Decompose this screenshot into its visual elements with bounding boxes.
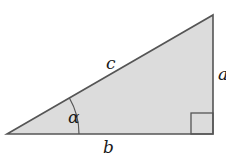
label-b: b (103, 137, 114, 157)
right-triangle-diagram: c a b α (0, 0, 226, 157)
label-alpha: α (68, 107, 80, 127)
label-a: a (218, 64, 226, 84)
triangle-shape (7, 15, 213, 134)
label-c: c (106, 53, 116, 73)
